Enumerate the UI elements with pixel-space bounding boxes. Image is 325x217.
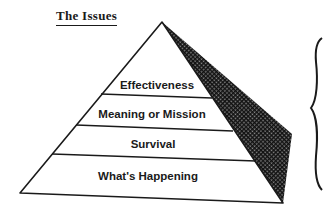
- pyramid-diagram: Effectiveness Meaning or Mission Surviva…: [0, 0, 325, 217]
- level-label-meaning: Meaning or Mission: [98, 108, 205, 120]
- level-label-whats-happening: What's Happening: [98, 170, 198, 182]
- level-label-effectiveness: Effectiveness: [120, 79, 194, 91]
- curly-brace-icon: [311, 38, 322, 190]
- level-label-survival: Survival: [131, 138, 176, 150]
